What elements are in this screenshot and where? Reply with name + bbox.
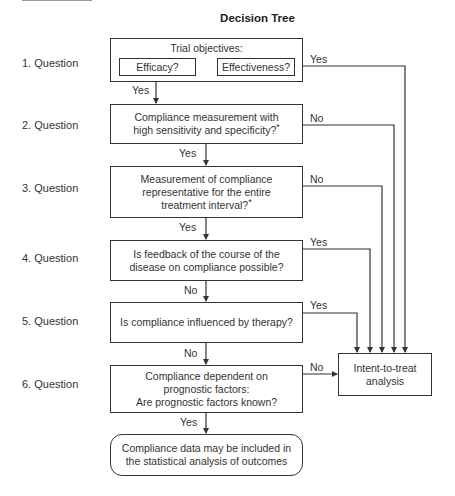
trial-objectives-heading: Trial objectives: xyxy=(111,42,302,55)
edge-label-q6-yes: Yes xyxy=(180,416,197,428)
itt-line-1: Intent-to-treat xyxy=(353,362,416,375)
q4-line-2: disease on compliance possible? xyxy=(129,261,283,274)
node-measurement-representative: Measurement of compliance representative… xyxy=(110,166,303,218)
final-line-1: Compliance data may be included in xyxy=(122,442,291,455)
edge-label-q5-yes: Yes xyxy=(310,299,327,311)
node-influenced-by-therapy: Is compliance influenced by therapy? xyxy=(110,302,303,343)
edge-label-q4-yes: Yes xyxy=(310,236,327,248)
edge-label-q2-yes: Yes xyxy=(179,147,196,159)
node-feedback-course: Is feedback of the course of the disease… xyxy=(110,240,303,281)
node-prognostic-factors: Compliance dependent on prognostic facto… xyxy=(110,365,303,413)
final-line-2: the statistical analysis of outcomes xyxy=(122,455,291,468)
q6-line-1: Compliance dependent on xyxy=(136,370,277,383)
edge-label-q4-no: No xyxy=(184,284,197,296)
edge-label-q6-no: No xyxy=(310,361,323,373)
edge-label-q1-efficacy-yes: Yes xyxy=(132,84,149,96)
node-trial-objectives: Trial objectives: Efficacy? Effectivenes… xyxy=(110,38,303,82)
edge-label-q3-yes: Yes xyxy=(179,221,196,233)
edge-q5-to-itt xyxy=(302,313,357,352)
q3-line-2: representative for the entire xyxy=(141,186,273,199)
node-compliance-measurement: Compliance measurement with high sensiti… xyxy=(110,104,303,144)
q6-line-3: Are prognostic factors known? xyxy=(136,396,277,409)
option-efficacy: Efficacy? xyxy=(119,58,196,76)
edge-label-q5-no: No xyxy=(184,347,197,359)
node-compliance-data-included: Compliance data may be included in the s… xyxy=(110,434,303,476)
q3-line-3: treatment interval? xyxy=(161,199,248,211)
q3-line-1: Measurement of compliance xyxy=(141,173,273,186)
q2-line-2: high sensitivity and specificity? xyxy=(133,124,276,136)
edge-label-q2-no: No xyxy=(310,112,323,124)
edge-label-q1-effectiveness-yes: Yes xyxy=(310,53,327,65)
option-effectiveness: Effectiveness? xyxy=(217,58,295,76)
q2-footnote-marker: * xyxy=(276,122,280,132)
node-intent-to-treat: Intent-to-treat analysis xyxy=(338,353,432,396)
q4-line-1: Is feedback of the course of the xyxy=(129,248,283,261)
edge-label-q3-no: No xyxy=(310,173,323,185)
itt-line-2: analysis xyxy=(353,375,416,388)
q3-footnote-marker: * xyxy=(248,196,252,206)
q6-line-2: prognostic factors: xyxy=(136,383,277,396)
q5-line-1: Is compliance influenced by therapy? xyxy=(120,316,293,329)
q2-line-1: Compliance measurement with xyxy=(133,111,280,124)
